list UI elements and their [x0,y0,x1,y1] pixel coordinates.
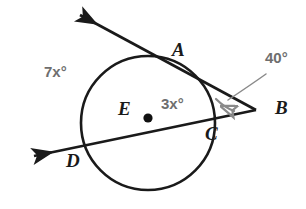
circle-center-dot [143,113,152,122]
arc-measure-label-7x: 7x° [44,64,67,79]
angle-measure-label-40: 40° [265,50,288,65]
geometry-canvas [0,0,306,209]
point-label-C: C [205,124,218,143]
point-label-B: B [275,98,288,117]
point-label-D: D [66,151,80,170]
angle-40-leader-line [228,74,266,100]
angle-at-B-arc-arrow [216,99,234,111]
geometry-figure: A B C D E 7x° 3x° 40° [0,0,306,209]
arc-measure-label-3x: 3x° [161,96,184,111]
point-label-E-center: E [118,99,131,118]
point-label-A: A [172,40,185,59]
